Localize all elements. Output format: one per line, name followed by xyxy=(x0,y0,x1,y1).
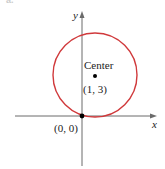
center-label: Center xyxy=(84,60,113,71)
part-label: a. xyxy=(6,0,14,5)
center-coord-label: (1, 3) xyxy=(83,84,107,95)
x-axis-label: x xyxy=(152,119,157,130)
origin-label: (0, 0) xyxy=(54,123,78,134)
center-point xyxy=(93,74,97,78)
origin-point xyxy=(80,114,85,119)
y-axis-arrow-icon xyxy=(80,11,85,18)
y-axis-label: y xyxy=(73,10,78,21)
circle-diagram: a. y x Center (1, 3) (0, 0) xyxy=(0,0,165,169)
